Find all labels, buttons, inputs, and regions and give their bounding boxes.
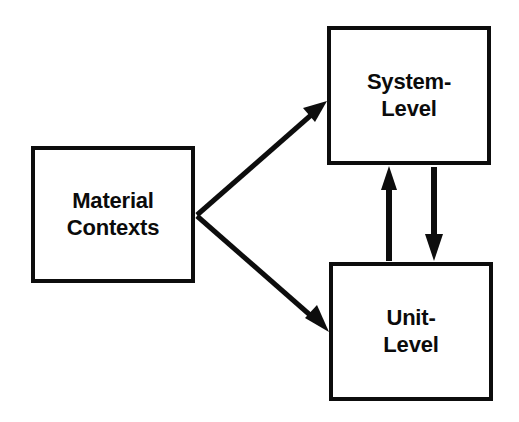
node-unit-level-label: Unit- Level [383,305,438,359]
node-material-contexts[interactable]: Material Contexts [31,146,195,283]
node-system-level-label: System- Level [367,69,451,123]
arrow-system-to-unit [425,167,443,261]
node-unit-level[interactable]: Unit- Level [329,262,493,401]
arrow-material-to-unit [197,216,329,332]
node-system-level[interactable]: System- Level [327,26,491,165]
arrow-unit-to-system [381,166,397,261]
arrow-material-to-system [197,101,327,215]
node-material-contexts-label: Material Contexts [67,188,160,242]
diagram-canvas: Material Contexts System- Level Unit- Le… [0,0,519,422]
